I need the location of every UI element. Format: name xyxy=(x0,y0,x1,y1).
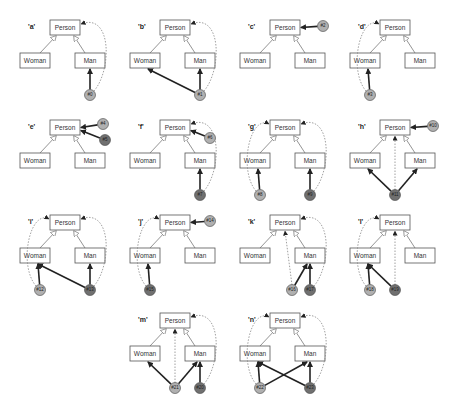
svg-text:Man: Man xyxy=(194,350,207,357)
svg-text:Man: Man xyxy=(304,157,317,164)
man-class-box: Man xyxy=(75,53,105,68)
panel-label: 'e' xyxy=(28,123,36,130)
svg-text:Man: Man xyxy=(304,57,317,64)
svg-text:Man: Man xyxy=(194,157,207,164)
woman-class-box: Woman xyxy=(130,346,160,361)
svg-text:#1: #1 xyxy=(197,92,203,97)
woman-class-box: Woman xyxy=(350,153,380,168)
generalization-edge xyxy=(184,329,195,346)
instance-node: #20 xyxy=(195,383,206,394)
man-class-box: Man xyxy=(295,53,325,68)
link-edge xyxy=(265,362,307,385)
instance-node: #5 xyxy=(100,135,111,146)
generalization-edge xyxy=(260,36,276,53)
generalization-edge xyxy=(294,231,305,248)
generalization-edge xyxy=(294,36,305,53)
instance-node: #14 xyxy=(205,216,216,227)
link-edge xyxy=(368,264,391,286)
svg-text:#3: #3 xyxy=(367,92,373,97)
instance-node: #13 xyxy=(85,285,96,296)
svg-text:Man: Man xyxy=(194,57,207,64)
link-edge xyxy=(81,131,100,138)
generalization-edge xyxy=(150,136,166,153)
panel-label: 'd' xyxy=(358,23,366,30)
panel-label: 'f' xyxy=(138,123,144,130)
generalization-edge xyxy=(404,36,415,53)
generalization-edge xyxy=(294,329,305,346)
svg-text:Woman: Woman xyxy=(134,157,157,164)
woman-class-box: Woman xyxy=(240,346,270,361)
generalization-edge xyxy=(404,231,415,248)
generalization-edge xyxy=(74,36,85,53)
svg-text:#20: #20 xyxy=(196,385,204,390)
woman-class-box: Woman xyxy=(130,153,160,168)
link-edge xyxy=(179,362,197,384)
generalization-edge xyxy=(260,136,276,153)
instance-node: #6 xyxy=(205,133,216,144)
generalization-edge xyxy=(260,231,276,248)
generalization-edge xyxy=(184,231,195,248)
svg-text:#13: #13 xyxy=(86,287,94,292)
panel-label: 'i' xyxy=(28,218,34,225)
generalization-edge xyxy=(184,36,195,53)
man-class-box: Man xyxy=(75,248,105,263)
svg-text:#7: #7 xyxy=(197,192,203,197)
svg-text:Man: Man xyxy=(414,57,427,64)
woman-class-box: Woman xyxy=(350,248,380,263)
person-class-box: Person xyxy=(50,215,80,230)
svg-text:Man: Man xyxy=(84,157,97,164)
svg-text:#23: #23 xyxy=(306,385,314,390)
link-edge xyxy=(411,126,428,127)
panel-b: 'b'PersonWomanMan#1 xyxy=(130,20,216,101)
link-edge xyxy=(368,264,370,285)
svg-text:Man: Man xyxy=(194,252,207,259)
instance-node: #16 xyxy=(287,285,298,296)
panel-n: 'n'PersonWomanMan#22#23 xyxy=(240,313,326,394)
link-edge xyxy=(38,264,85,288)
svg-text:Person: Person xyxy=(165,24,186,31)
svg-text:#22: #22 xyxy=(256,385,264,390)
svg-text:#5: #5 xyxy=(102,137,108,142)
generalization-edge xyxy=(40,231,56,248)
instance-node: #21 xyxy=(170,383,181,394)
svg-text:Man: Man xyxy=(304,350,317,357)
link-edge xyxy=(191,131,205,136)
svg-text:Person: Person xyxy=(275,124,296,131)
man-class-box: Man xyxy=(185,248,215,263)
svg-text:Person: Person xyxy=(275,24,296,31)
link-edge xyxy=(301,26,318,27)
panel-label: 'n' xyxy=(248,316,256,323)
panel-d: 'd'PersonWomanMan#3 xyxy=(350,20,435,101)
panel-m: 'm'PersonWomanMan#21#20 xyxy=(130,313,216,394)
svg-text:#18: #18 xyxy=(366,287,374,292)
svg-text:Man: Man xyxy=(414,252,427,259)
instance-of-edge xyxy=(285,231,292,285)
woman-class-box: Woman xyxy=(20,153,50,168)
man-class-box: Man xyxy=(185,53,215,68)
person-class-box: Person xyxy=(160,120,190,135)
woman-class-box: Woman xyxy=(240,153,270,168)
svg-text:Man: Man xyxy=(84,57,97,64)
svg-text:Person: Person xyxy=(275,219,296,226)
instance-node: #11 xyxy=(390,190,401,201)
woman-class-box: Woman xyxy=(240,53,270,68)
svg-text:Woman: Woman xyxy=(354,157,377,164)
generalization-edge xyxy=(184,136,195,153)
svg-text:Person: Person xyxy=(55,24,76,31)
svg-text:Woman: Woman xyxy=(134,57,157,64)
svg-text:#11: #11 xyxy=(391,192,399,197)
generalization-edge xyxy=(260,329,276,346)
instance-node: #12 xyxy=(35,285,46,296)
instance-node: #19 xyxy=(390,285,401,296)
woman-class-box: Woman xyxy=(130,248,160,263)
svg-text:#2: #2 xyxy=(320,23,326,28)
svg-text:Person: Person xyxy=(385,219,406,226)
person-class-box: Person xyxy=(380,20,410,35)
instance-node: #2 xyxy=(318,21,329,32)
man-class-box: Man xyxy=(185,346,215,361)
instance-node: #23 xyxy=(305,383,316,394)
man-class-box: Man xyxy=(75,153,105,168)
panel-label: 'j' xyxy=(138,218,144,226)
panel-label: 'b' xyxy=(138,23,146,30)
instance-node: #15 xyxy=(145,285,156,296)
